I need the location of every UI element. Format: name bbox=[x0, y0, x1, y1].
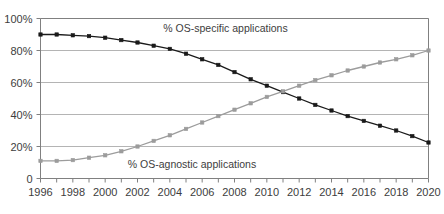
data-point-marker bbox=[168, 134, 171, 137]
y-tick-label-40: 40% bbox=[10, 109, 32, 121]
x-tick-label-2020: 2020 bbox=[416, 186, 440, 198]
data-point-marker bbox=[378, 61, 381, 64]
x-tick-label-2012: 2012 bbox=[287, 186, 311, 198]
data-point-marker bbox=[314, 78, 317, 81]
data-point-marker bbox=[217, 63, 220, 66]
x-tick-label-2016: 2016 bbox=[352, 186, 376, 198]
chart-container: 020%40%60%80%100% 1996199820002002200420… bbox=[0, 0, 444, 214]
data-point-marker bbox=[427, 49, 430, 52]
data-point-marker bbox=[184, 127, 187, 130]
data-point-marker bbox=[184, 52, 187, 55]
data-point-marker bbox=[330, 109, 333, 112]
data-point-marker bbox=[249, 102, 252, 105]
y-tick-label-100: 100% bbox=[4, 13, 32, 25]
data-point-marker bbox=[362, 119, 365, 122]
data-point-marker bbox=[265, 84, 268, 87]
data-point-marker bbox=[411, 54, 414, 57]
data-point-marker bbox=[281, 90, 284, 93]
data-point-marker bbox=[136, 145, 139, 148]
y-tick-label-20: 20% bbox=[10, 141, 32, 153]
series-annotation-0: % OS-specific applications bbox=[163, 22, 287, 34]
data-point-marker bbox=[427, 141, 430, 144]
y-tick-label-0: 0 bbox=[26, 173, 32, 185]
data-point-marker bbox=[378, 124, 381, 127]
data-point-marker bbox=[103, 154, 106, 157]
data-point-marker bbox=[103, 36, 106, 39]
x-tick-label-2008: 2008 bbox=[222, 186, 246, 198]
data-point-marker bbox=[346, 69, 349, 72]
data-point-marker bbox=[297, 84, 300, 87]
x-tick-label-1996: 1996 bbox=[28, 186, 52, 198]
series-annotation-1: % OS-agnostic applications bbox=[128, 158, 256, 170]
data-point-marker bbox=[71, 158, 74, 161]
x-tick-label-2010: 2010 bbox=[255, 186, 279, 198]
x-tick-label-2014: 2014 bbox=[319, 186, 343, 198]
data-point-marker bbox=[249, 78, 252, 81]
data-point-marker bbox=[330, 74, 333, 77]
data-point-marker bbox=[39, 159, 42, 162]
data-point-marker bbox=[346, 114, 349, 117]
data-point-marker bbox=[71, 34, 74, 37]
y-tick-label-60: 60% bbox=[10, 77, 32, 89]
data-point-marker bbox=[233, 70, 236, 73]
data-point-marker bbox=[217, 114, 220, 117]
data-point-marker bbox=[168, 47, 171, 50]
data-point-marker bbox=[152, 44, 155, 47]
data-point-marker bbox=[55, 33, 58, 36]
data-point-marker bbox=[55, 159, 58, 162]
y-tick-label-80: 80% bbox=[10, 45, 32, 57]
x-tick-label-2004: 2004 bbox=[158, 186, 182, 198]
data-point-marker bbox=[394, 129, 397, 132]
data-point-marker bbox=[120, 38, 123, 41]
data-point-marker bbox=[362, 65, 365, 68]
data-point-marker bbox=[314, 103, 317, 106]
data-point-marker bbox=[39, 33, 42, 36]
data-point-marker bbox=[200, 121, 203, 124]
data-point-marker bbox=[87, 34, 90, 37]
data-point-marker bbox=[265, 95, 268, 98]
x-tick-label-1998: 1998 bbox=[61, 186, 85, 198]
x-tick-label-2000: 2000 bbox=[93, 186, 117, 198]
x-tick-label-2018: 2018 bbox=[384, 186, 408, 198]
x-tick-label-2006: 2006 bbox=[190, 186, 214, 198]
x-tick-label-2002: 2002 bbox=[125, 186, 149, 198]
data-point-marker bbox=[233, 108, 236, 111]
data-point-marker bbox=[297, 97, 300, 100]
data-point-marker bbox=[411, 134, 414, 137]
data-point-marker bbox=[394, 58, 397, 61]
data-point-marker bbox=[87, 156, 90, 159]
data-point-marker bbox=[200, 58, 203, 61]
data-point-marker bbox=[136, 41, 139, 44]
data-point-marker bbox=[152, 139, 155, 142]
data-point-marker bbox=[120, 150, 123, 153]
line-chart: 020%40%60%80%100% 1996199820002002200420… bbox=[0, 0, 444, 214]
